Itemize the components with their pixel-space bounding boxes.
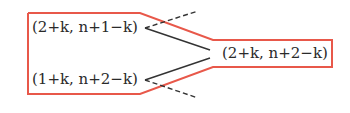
edge-bottom-to-right (145, 58, 210, 80)
node-top-left: (2+k, n+1−k) (32, 20, 138, 35)
node-top-left-text: (2+k, n+1−k) (32, 18, 138, 36)
node-bottom-left: (1+k, n+2−k) (32, 72, 138, 87)
node-right: (2+k, n+2−k) (222, 46, 328, 61)
node-right-text: (2+k, n+2−k) (222, 44, 328, 62)
edge-top-to-right (145, 28, 210, 50)
node-bottom-left-text: (1+k, n+2−k) (32, 70, 138, 88)
